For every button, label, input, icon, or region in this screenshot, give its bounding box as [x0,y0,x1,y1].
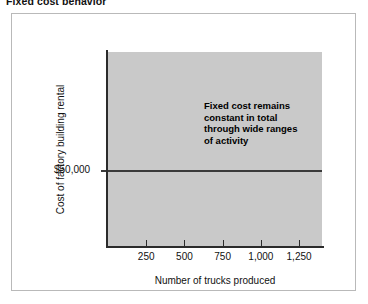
figure-title: Fixed cost behavior [6,0,107,7]
y-axis-value-label: $50,000 [54,164,90,175]
x-axis-tick-label: 1,000 [248,251,273,262]
plot-area [108,52,322,246]
fixed-cost-annotation: Fixed cost remains constant in total thr… [204,100,322,146]
y-axis-title: Cost of factory building rental [55,60,66,240]
annotation-line-3: through wide ranges [204,123,322,135]
x-axis-tick [261,240,262,247]
x-axis-line [106,246,324,248]
x-axis-tick-label: 1,250 [287,251,312,262]
y-axis-line [106,50,108,248]
annotation-line-2: constant in total [204,112,322,124]
x-axis-title: Number of trucks produced [108,275,322,286]
annotation-line-1: Fixed cost remains [204,100,322,112]
x-axis-tick-label: 750 [214,251,231,262]
x-axis-tick-label: 500 [176,251,193,262]
x-axis-tick [299,240,300,247]
x-axis-tick-label: 250 [138,251,155,262]
x-axis-tick [184,240,185,247]
x-axis-tick [146,240,147,247]
x-axis-tick [223,240,224,247]
annotation-line-4: of activity [204,135,322,147]
fixed-cost-line [108,170,322,172]
figure-frame: Cost of factory building rental $50,000 … [11,13,356,291]
